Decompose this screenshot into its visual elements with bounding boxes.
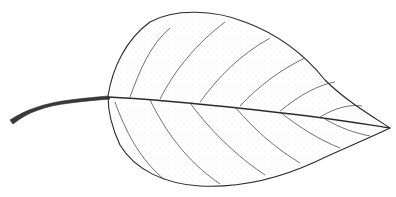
- petiole: [10, 96, 110, 124]
- leaf-illustration: [0, 0, 396, 197]
